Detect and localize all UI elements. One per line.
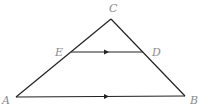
side-cb xyxy=(111,19,185,96)
parallel-arrow-icon xyxy=(104,50,109,55)
triangle-diagram: C E D A B xyxy=(0,0,201,111)
label-a: A xyxy=(1,94,10,107)
label-e: E xyxy=(54,46,63,59)
side-ab xyxy=(16,96,185,97)
label-c: C xyxy=(109,2,118,15)
label-d: D xyxy=(151,46,161,59)
label-b: B xyxy=(189,94,198,107)
side-ac xyxy=(16,19,111,97)
parallel-arrow-icon xyxy=(104,94,109,99)
